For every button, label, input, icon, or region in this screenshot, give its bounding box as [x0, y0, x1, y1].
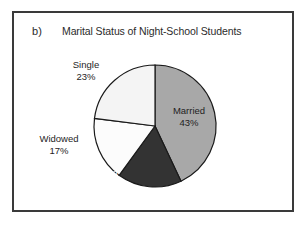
pie-slice-single[interactable] — [95, 65, 156, 126]
pie-svg — [80, 51, 230, 201]
pie-chart: Married 43% Divorced 17% Widowed 17% Sin… — [14, 13, 296, 214]
figure-panel: b) Marital Status of Night-School Studen… — [12, 11, 294, 212]
